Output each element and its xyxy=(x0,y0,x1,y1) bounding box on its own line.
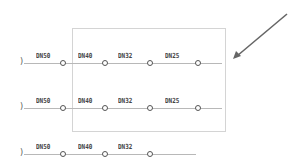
pipe-size-label: DN25 xyxy=(165,52,179,60)
pipe-size-label: DN50 xyxy=(36,97,50,105)
pipe-start-mark: ) xyxy=(20,102,23,111)
pipe-size-label: DN40 xyxy=(78,52,92,60)
pipe-node[interactable] xyxy=(102,60,108,66)
pipe-node[interactable] xyxy=(147,105,153,111)
pipe-node[interactable] xyxy=(102,105,108,111)
pipe-node[interactable] xyxy=(60,105,66,111)
pipe-node[interactable] xyxy=(147,60,153,66)
pipe-size-label: DN32 xyxy=(118,143,132,151)
pipe-line xyxy=(24,154,196,155)
pipe-line xyxy=(24,108,222,109)
pipe-node[interactable] xyxy=(195,105,201,111)
pipe-size-label: DN25 xyxy=(165,97,179,105)
pipe-size-label: DN32 xyxy=(118,97,132,105)
pipe-start-mark: ) xyxy=(20,148,23,157)
pipe-start-mark: ) xyxy=(20,57,23,66)
pipe-size-label: DN40 xyxy=(78,143,92,151)
pipe-node[interactable] xyxy=(102,151,108,157)
pipe-size-label: DN50 xyxy=(36,143,50,151)
pipe-size-label: DN40 xyxy=(78,97,92,105)
pipe-node[interactable] xyxy=(60,151,66,157)
pipe-node[interactable] xyxy=(147,151,153,157)
pipe-size-label: DN32 xyxy=(118,52,132,60)
pipe-node[interactable] xyxy=(195,60,201,66)
pipe-size-label: DN50 xyxy=(36,52,50,60)
pipe-line xyxy=(24,63,222,64)
pipe-node[interactable] xyxy=(60,60,66,66)
